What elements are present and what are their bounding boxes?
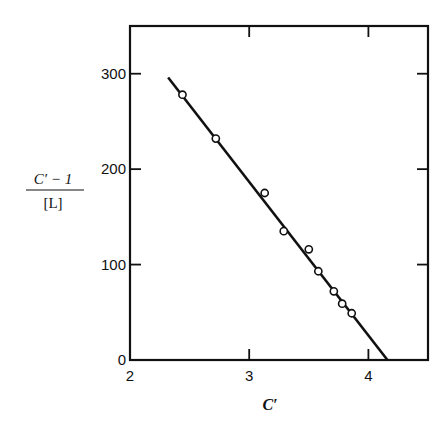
data-point <box>305 246 312 253</box>
data-point <box>315 268 322 275</box>
axis-labels: C′ C′ − 1 [L] <box>26 171 278 413</box>
y-tick-label: 200 <box>101 160 126 177</box>
x-tick-label: 4 <box>364 367 372 384</box>
x-tick-label: 2 <box>126 367 134 384</box>
data-point <box>348 310 355 317</box>
y-axis-label-numerator: C′ − 1 <box>34 171 72 187</box>
fit-line <box>168 78 387 360</box>
data-point <box>330 288 337 295</box>
data-point <box>179 91 186 98</box>
x-tick-label: 3 <box>245 367 253 384</box>
y-tick-label: 0 <box>118 351 126 368</box>
y-tick-label: 100 <box>101 256 126 273</box>
plot-border <box>130 26 428 360</box>
plot-frame <box>130 26 428 360</box>
data-point <box>280 228 287 235</box>
axis-ticks: 2340100200300 <box>101 26 428 384</box>
scatter-chart: 2340100200300 C′ C′ − 1 [L] <box>0 0 448 437</box>
y-tick-label: 300 <box>101 65 126 82</box>
y-axis-label-denominator: [L] <box>43 195 62 211</box>
data-point <box>212 135 219 142</box>
data-point <box>261 189 268 196</box>
regression-line <box>168 78 387 360</box>
x-axis-label: C′ <box>262 396 277 413</box>
data-point <box>339 300 346 307</box>
